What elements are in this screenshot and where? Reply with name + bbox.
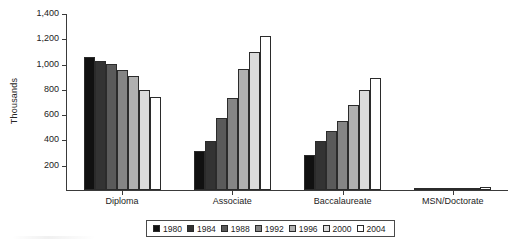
y-tick-label: 400 (44, 134, 59, 144)
bar-group (67, 14, 177, 190)
legend-swatch-icon (153, 225, 160, 232)
bar[interactable] (205, 141, 216, 190)
x-tick-mark (232, 190, 233, 195)
legend-label: 1980 (163, 224, 182, 234)
legend-item[interactable]: 2000 (323, 224, 352, 234)
chart-legend: 1980198419881992199620002004 (146, 220, 395, 237)
x-axis-category-label: Diploma (67, 196, 177, 206)
bar[interactable] (260, 36, 271, 190)
legend-item[interactable]: 1984 (187, 224, 216, 234)
plot-area: 1,4001,2001,000800600400200 (66, 14, 508, 191)
x-axis-category-label: Baccalaureate (288, 196, 398, 206)
bar[interactable] (150, 97, 161, 190)
legend-swatch-icon (221, 225, 228, 232)
x-tick-mark (343, 190, 344, 195)
legend-label: 1996 (299, 224, 318, 234)
bar[interactable] (117, 70, 128, 190)
legend-swatch-icon (323, 225, 330, 232)
legend-item[interactable]: 1988 (221, 224, 250, 234)
legend-item[interactable]: 2004 (357, 224, 386, 234)
bar[interactable] (348, 105, 359, 190)
y-tick-label: 1,000 (36, 59, 59, 69)
scan-artifact (12, 236, 132, 239)
bar-groups (67, 14, 508, 190)
bar[interactable] (84, 57, 95, 190)
bar[interactable] (304, 155, 315, 190)
bar[interactable] (249, 52, 260, 190)
x-tick-mark (122, 190, 123, 195)
bar[interactable] (337, 121, 348, 190)
y-tick-label: 200 (44, 160, 59, 170)
x-axis-category-label: Associate (177, 196, 287, 206)
bar-chart: Thousands 1,4001,2001,000800600400200 Di… (0, 0, 518, 243)
bar-group (398, 14, 508, 190)
x-tick-mark (453, 190, 454, 195)
bar[interactable] (425, 188, 436, 190)
bar[interactable] (227, 98, 238, 190)
x-axis-category-labels: DiplomaAssociateBaccalaureateMSN/Doctora… (67, 196, 508, 206)
legend-swatch-icon (357, 225, 364, 232)
bar[interactable] (469, 188, 480, 190)
legend-label: 1988 (231, 224, 250, 234)
y-tick-label: 600 (44, 109, 59, 119)
bar[interactable] (315, 141, 326, 190)
bar[interactable] (139, 90, 150, 190)
bar[interactable] (480, 187, 491, 190)
bar[interactable] (95, 61, 106, 190)
bar[interactable] (326, 131, 337, 190)
legend-label: 2004 (367, 224, 386, 234)
x-axis-category-label: MSN/Doctorate (398, 196, 508, 206)
bar-group (288, 14, 398, 190)
legend-label: 2000 (333, 224, 352, 234)
legend-item[interactable]: 1996 (289, 224, 318, 234)
bar[interactable] (370, 78, 381, 190)
y-tick-label: 1,400 (36, 8, 59, 18)
legend-label: 1992 (265, 224, 284, 234)
legend-item[interactable]: 1980 (153, 224, 182, 234)
bar[interactable] (106, 64, 117, 190)
y-tick-label: 800 (44, 84, 59, 94)
bar[interactable] (216, 118, 227, 190)
y-tick-label: 1,200 (36, 33, 59, 43)
legend-swatch-icon (255, 225, 262, 232)
bar[interactable] (194, 151, 205, 190)
bar[interactable] (436, 188, 447, 190)
bar-group (177, 14, 287, 190)
bar[interactable] (414, 188, 425, 190)
legend-swatch-icon (187, 225, 194, 232)
y-axis-title: Thousands (9, 61, 19, 141)
bar[interactable] (359, 90, 370, 190)
legend-item[interactable]: 1992 (255, 224, 284, 234)
bar[interactable] (128, 76, 139, 190)
bar[interactable] (238, 69, 249, 190)
legend-label: 1984 (197, 224, 216, 234)
x-axis-line (66, 190, 508, 191)
legend-swatch-icon (289, 225, 296, 232)
bar[interactable] (458, 188, 469, 190)
